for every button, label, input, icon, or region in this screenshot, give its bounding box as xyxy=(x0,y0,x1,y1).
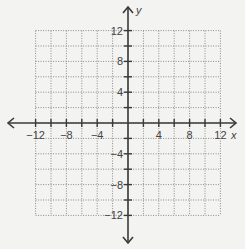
axes xyxy=(8,7,236,243)
x-tick-label: −8 xyxy=(60,129,73,141)
y-tick-label: −4 xyxy=(110,148,123,160)
y-tick-label: 8 xyxy=(117,55,123,67)
y-tick-label: −8 xyxy=(110,179,123,191)
x-tick-labels: −12−8−44812 xyxy=(26,129,226,141)
y-axis-label: y xyxy=(135,4,143,16)
coordinate-plane: −12−8−44812 1284−4−8−12 x y xyxy=(0,0,245,249)
x-axis-label: x xyxy=(230,129,237,141)
x-tick-label: −4 xyxy=(91,129,104,141)
y-tick-label: 12 xyxy=(111,25,123,37)
x-tick-label: 4 xyxy=(156,129,162,141)
x-tick-label: −12 xyxy=(26,129,45,141)
y-tick-label: −12 xyxy=(104,209,123,221)
y-tick-label: 4 xyxy=(117,86,123,98)
x-tick-label: 12 xyxy=(214,129,226,141)
x-tick-label: 8 xyxy=(187,129,193,141)
